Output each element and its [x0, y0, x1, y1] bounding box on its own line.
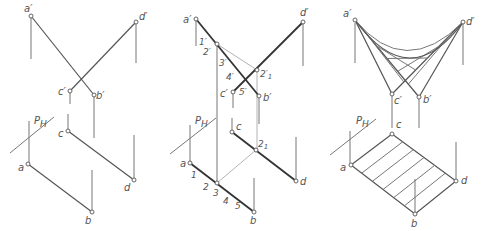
plan-rulings — [362, 142, 446, 206]
label-b-prime: b′ — [96, 90, 105, 101]
ruled-surface-front — [355, 20, 463, 97]
line-a-b — [190, 163, 254, 212]
label-b: b — [85, 215, 91, 226]
label-d: d — [461, 175, 468, 186]
line-a-b — [28, 164, 92, 212]
label-c: c — [396, 119, 402, 130]
point-d-prime — [134, 20, 138, 24]
envelope-curve-inner — [355, 20, 463, 51]
line-d-prime-c-prime — [70, 22, 136, 91]
label-b-prime: b′ — [423, 94, 432, 105]
label-c-prime: c′ — [394, 95, 402, 106]
line-a-prime-b-prime — [196, 19, 259, 96]
point-c — [230, 130, 234, 134]
plane-trace-ph — [10, 117, 54, 153]
label-b: b — [411, 218, 417, 229]
label-3-prime: 3′ — [219, 58, 227, 68]
ruling-line-plan — [404, 173, 445, 206]
label-d-prime: d′ — [466, 16, 475, 27]
label-a: a — [18, 162, 24, 173]
label-c-prime: c′ — [220, 88, 228, 99]
point-a-prime — [353, 18, 357, 22]
ruling-line-plan — [383, 158, 424, 190]
point-b-prime — [417, 95, 421, 99]
label-2: 2 — [203, 182, 209, 192]
ruling-line-plan — [362, 142, 403, 173]
label-d-prime: d′ — [300, 7, 309, 18]
line-c-d — [68, 131, 134, 180]
label-d: d — [300, 176, 307, 187]
panel-right: a′ d′ c′ b′ PH c a d b — [330, 8, 475, 229]
label-c-prime: c′ — [58, 86, 66, 97]
line-a-prime-b-prime — [31, 16, 94, 95]
point-a-prime — [29, 14, 33, 18]
label-ph: PH — [356, 115, 369, 129]
point-d — [132, 178, 136, 182]
point-b — [252, 210, 256, 214]
point-b — [413, 212, 417, 216]
point-d-prime — [461, 20, 465, 24]
point-c-prime — [231, 90, 235, 94]
line-d-prime-c-prime — [233, 22, 303, 92]
label-ph: PH — [34, 115, 47, 129]
label-a-prime: a′ — [183, 14, 192, 25]
label-4: 4 — [223, 196, 229, 206]
point-c — [66, 129, 70, 133]
label-3: 3 — [213, 188, 219, 198]
point-b-prime — [257, 94, 261, 98]
point-d-prime — [301, 20, 305, 24]
point-d — [294, 179, 298, 183]
point-a — [26, 162, 30, 166]
point-3 — [215, 181, 219, 185]
label-b: b — [250, 215, 256, 226]
point-a — [188, 161, 192, 165]
label-a: a — [340, 162, 346, 173]
ruling-line-plan — [394, 165, 435, 197]
point-a-prime — [194, 17, 198, 21]
label-21: 21 — [258, 139, 268, 151]
plane-trace-ph — [170, 118, 216, 154]
label-4-prime: 4′ — [226, 72, 234, 82]
label-5-prime: 5′ — [239, 87, 247, 97]
label-a-prime: a′ — [24, 3, 33, 14]
panel-left: a′ d′ c′ b′ PH c a d b — [10, 3, 148, 226]
label-d: d — [124, 182, 131, 193]
label-d-prime: d′ — [139, 11, 148, 22]
plane-trace-ph — [330, 119, 376, 155]
ruling-line-front — [366, 33, 404, 82]
ruling-line-front — [408, 34, 451, 84]
label-2-prime: 2′ — [203, 47, 211, 57]
label-1-prime: 1′ — [199, 37, 207, 47]
point-b — [90, 210, 94, 214]
label-ph: PH — [195, 115, 208, 129]
point-c — [390, 132, 394, 136]
label-c: c — [58, 128, 64, 139]
label-1: 1 — [191, 170, 197, 180]
point-a — [349, 163, 353, 167]
point-21-prime — [255, 68, 259, 72]
construction-line-3-21 — [217, 150, 256, 183]
label-21-prime: 2′1 — [260, 69, 272, 81]
label-a-prime: a′ — [343, 8, 352, 19]
point-2-prime — [215, 42, 219, 46]
label-b-prime: b′ — [263, 92, 272, 103]
label-c: c — [236, 121, 242, 132]
point-d — [454, 179, 458, 183]
panel-middle: a′ d′ 1′ 2′ 3′ 4′ 2′1 c′ 5′ b′ PH c 21 a… — [170, 7, 309, 226]
label-5: 5 — [235, 201, 241, 211]
descriptive-geometry-figure: a′ d′ c′ b′ PH c a d b — [0, 0, 481, 231]
label-a: a — [180, 158, 186, 169]
point-c-prime — [68, 89, 72, 93]
line-c-d — [232, 132, 296, 181]
ruling-line-plan — [372, 150, 413, 182]
